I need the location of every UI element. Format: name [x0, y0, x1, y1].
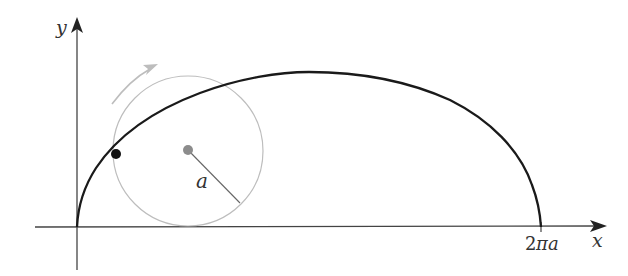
x-axis [35, 220, 607, 232]
x-tick-label-pi: π [535, 233, 549, 254]
x-tick-label-a: a [548, 233, 559, 254]
tracing-point [111, 149, 121, 159]
x-tick-label: 2 π a [525, 233, 559, 254]
cycloid-figure: y x a 2 π a [0, 0, 628, 276]
radius-label: a [196, 169, 208, 193]
x-axis-label: x [592, 229, 603, 251]
circle-center-dot [183, 145, 193, 155]
cycloid-curve [77, 72, 541, 227]
y-axis-label: y [55, 16, 67, 38]
y-axis [71, 17, 83, 270]
x-tick-label-number: 2 [525, 233, 536, 254]
